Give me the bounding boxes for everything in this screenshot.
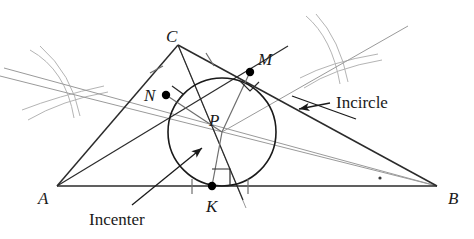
angle-bisector-dot [378,176,381,179]
construction-arcs-right [300,14,382,88]
incenter-label-P: P [209,112,219,129]
incircle-radii [166,72,250,186]
tick-side-AC [150,66,163,73]
point-N [162,91,170,99]
point-M [246,68,254,76]
labeled-points [162,68,254,190]
construction-arcs-left [22,46,108,120]
tangent-label-K: K [206,198,217,215]
tick-side-CB [206,53,214,66]
triangle-abc [57,45,437,186]
incircle-callout-label: Incircle [336,94,388,111]
diagram-canvas: A B C P N M K Incircle Incenter [0,0,474,239]
radius-PK [212,132,222,186]
bisector-from-B [4,68,437,186]
radius-PM [222,72,250,132]
bisector-extension-right [222,26,408,132]
segment-A-to-M [57,46,288,186]
congruence-ticks [150,53,248,194]
point-K [208,182,216,190]
vertex-label-A: A [38,190,48,207]
tangent-label-M: M [258,51,272,68]
incenter-callout-label: Incenter [89,211,145,228]
side-AC [57,45,178,186]
incircle-figure [0,0,474,239]
tangent-label-N: N [144,87,155,104]
vertex-label-C: C [166,28,177,45]
right-angle-marker-N [172,86,183,105]
vertex-label-B: B [448,190,458,207]
